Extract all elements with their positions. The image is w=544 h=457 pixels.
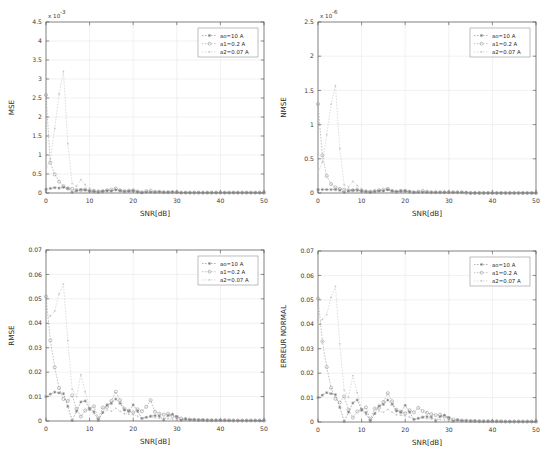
- data-point-marker: [399, 411, 402, 414]
- legend[interactable]: ao=10 Aa1=0.2 Aa2=0.07 A: [198, 256, 258, 285]
- data-point-marker: [369, 420, 372, 423]
- data-point-marker: [530, 420, 533, 423]
- data-point-marker: [210, 419, 213, 422]
- data-point-marker: [67, 340, 69, 342]
- y-tick-label: 2: [38, 113, 42, 120]
- data-point-marker: [45, 169, 47, 171]
- data-point-marker: [408, 411, 411, 414]
- data-point-marker: [456, 191, 459, 194]
- data-point-marker: [215, 191, 218, 194]
- legend[interactable]: ao=10 Aa1=0.2 Aa2=0.07 A: [198, 28, 258, 57]
- data-point-marker: [348, 186, 350, 188]
- data-point-marker: [184, 191, 187, 194]
- data-point-marker: [343, 191, 346, 194]
- data-point-marker: [79, 188, 82, 191]
- data-point-marker: [127, 190, 130, 193]
- data-point-marker: [487, 420, 490, 423]
- legend[interactable]: ao=10 Aa1=0.2 Aa2=0.07 A: [470, 257, 530, 286]
- x-tick-label: 30: [445, 197, 453, 204]
- data-point-marker: [504, 420, 507, 423]
- data-point-marker: [180, 419, 183, 422]
- data-point-marker: [391, 403, 394, 406]
- data-point-marker: [352, 181, 354, 183]
- data-point-marker: [378, 410, 380, 412]
- data-point-marker: [167, 414, 170, 417]
- data-point-marker: [50, 315, 52, 317]
- data-point-marker: [158, 415, 161, 418]
- data-point-marker: [71, 388, 73, 390]
- data-point-marker: [378, 404, 381, 407]
- x-tick-label: 10: [86, 197, 94, 204]
- data-point-marker: [172, 418, 174, 420]
- data-point-marker: [382, 403, 385, 406]
- data-point-marker: [356, 398, 359, 401]
- data-point-marker: [175, 415, 178, 418]
- data-point-marker: [223, 419, 226, 422]
- data-point-marker: [175, 191, 178, 194]
- data-point-marker: [495, 191, 498, 194]
- legend-label: a2=0.07 A: [492, 278, 521, 284]
- data-point-marker: [339, 343, 341, 345]
- data-point-marker: [482, 191, 485, 194]
- data-point-marker: [347, 189, 350, 192]
- data-point-marker: [119, 410, 121, 412]
- data-point-marker: [412, 418, 415, 421]
- data-point-marker: [417, 417, 420, 420]
- data-point-marker: [219, 191, 222, 194]
- y-tick-label: 4.5: [32, 18, 42, 25]
- data-point-marker: [53, 186, 56, 189]
- x-tick-label: 20: [129, 425, 137, 432]
- x-tick-label: 50: [532, 426, 540, 433]
- data-point-marker: [338, 406, 341, 409]
- data-point-marker: [206, 191, 209, 194]
- data-point-marker: [236, 191, 239, 194]
- data-point-marker: [408, 190, 411, 193]
- data-point-marker: [439, 191, 442, 194]
- svg-text:-3: -3: [60, 9, 66, 15]
- data-point-marker: [396, 414, 398, 416]
- data-point-marker: [80, 374, 82, 376]
- data-point-marker: [71, 183, 73, 185]
- data-point-marker: [347, 411, 350, 414]
- data-point-marker: [201, 418, 204, 421]
- data-point-marker: [136, 190, 139, 193]
- x-tick-label: 20: [129, 197, 137, 204]
- y-tick-label: 0: [38, 417, 42, 424]
- data-point-marker: [439, 415, 442, 418]
- data-point-marker: [232, 191, 235, 194]
- data-point-marker: [387, 408, 389, 410]
- y-axis-label: MSE: [7, 99, 16, 115]
- legend-label: a2=0.07 A: [220, 49, 249, 55]
- data-point-marker: [62, 392, 65, 395]
- y-tick-label: 0.07: [28, 246, 42, 253]
- data-point-marker: [110, 402, 113, 405]
- data-point-marker: [171, 190, 174, 193]
- data-point-marker: [236, 419, 239, 422]
- data-point-marker: [325, 391, 328, 394]
- data-point-marker: [421, 416, 424, 419]
- y-tick-label: 1.5: [32, 132, 42, 139]
- data-point-marker: [145, 416, 148, 419]
- data-point-marker: [97, 191, 100, 194]
- legend[interactable]: ao=10 Aa1=0.2 Aa2=0.07 A: [470, 28, 530, 57]
- data-point-marker: [97, 419, 100, 422]
- data-point-marker: [317, 323, 319, 325]
- data-point-marker: [517, 420, 520, 423]
- data-point-marker: [263, 419, 266, 422]
- data-point-marker: [378, 189, 381, 192]
- data-point-marker: [439, 419, 441, 421]
- data-point-marker: [140, 191, 143, 194]
- data-point-marker: [321, 188, 324, 191]
- data-point-marker: [400, 414, 402, 416]
- data-point-marker: [180, 191, 183, 194]
- data-point-marker: [434, 191, 437, 194]
- data-point-marker: [391, 411, 393, 413]
- data-point-marker: [322, 161, 324, 163]
- data-point-marker: [330, 392, 333, 395]
- data-point-marker: [114, 188, 117, 191]
- data-point-marker: [356, 189, 359, 192]
- x-axis-label: SNR[dB]: [412, 209, 442, 218]
- data-point-marker: [409, 416, 411, 418]
- x-axis-label: SNR[dB]: [140, 209, 170, 218]
- data-point-marker: [322, 319, 324, 321]
